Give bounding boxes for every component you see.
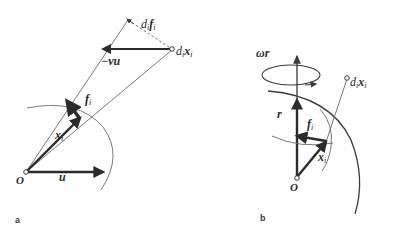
label-u-a: u: [59, 171, 66, 183]
di-xi-endpoint-a: [170, 47, 175, 52]
di-fi-arrow: [127, 19, 134, 24]
cone-edge-right: [26, 49, 173, 172]
origin-point-b: [295, 176, 300, 181]
label-minus-nu-u: −νu: [101, 55, 120, 67]
label-fi-a: fi: [85, 93, 91, 107]
label-omega-r: ωr: [256, 47, 269, 59]
xi-sub-b: i: [324, 156, 326, 165]
panel-letter-a: a: [15, 216, 20, 225]
origin-point-a: [24, 170, 29, 175]
label-di-xi-a: dixi: [176, 45, 193, 59]
fi-vector-b: [297, 136, 326, 141]
label-r-b: r: [277, 108, 282, 120]
di-fi-sub2: i: [153, 23, 155, 32]
label-fi-b: fi: [307, 118, 313, 132]
panel-a-graphics: [24, 19, 175, 190]
xi-vector-a: [27, 118, 80, 171]
label-origin-b: O: [290, 182, 298, 193]
label-di-fi-a: difi: [141, 18, 156, 32]
surface-arc-a: [27, 105, 113, 190]
rotation-direction-arrow-b: [305, 84, 316, 85]
xi-sub-a: i: [61, 134, 63, 143]
vector-diagram-svg: [0, 0, 395, 237]
di-xi-sub2-b: i: [364, 81, 366, 90]
label-xi-a: xi: [55, 129, 63, 143]
panel-letter-b: b: [260, 214, 266, 223]
label-xi-b: xi: [318, 151, 326, 165]
di-xi-sub2-a: i: [190, 50, 192, 59]
rotation-ellipse-b: [262, 65, 320, 85]
fi-sub-b: i: [311, 123, 313, 132]
di-xi-endpoint-b: [345, 76, 350, 81]
label-origin-a: O: [16, 175, 24, 186]
label-di-xi-b: dixi: [350, 76, 367, 90]
panel-b-graphics: [262, 56, 360, 214]
figure-root: difi dixi −νu fi xi u O a ωr dixi r fi x…: [0, 0, 395, 237]
di-xi-line-b: [326, 79, 347, 142]
fi-sub-a: i: [89, 98, 91, 107]
